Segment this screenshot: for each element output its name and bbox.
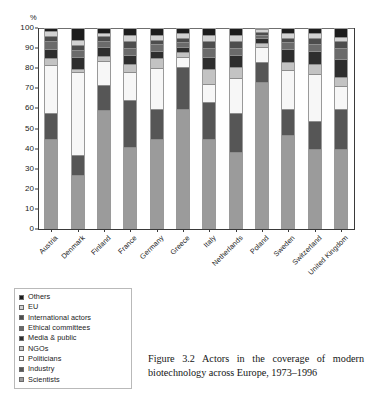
bar-segment <box>230 153 242 228</box>
bar-segment <box>124 65 136 74</box>
y-axis-tick-mark <box>35 88 38 89</box>
legend-item-label: Industry <box>28 365 54 373</box>
x-axis-category-label: Denmark <box>59 234 86 261</box>
legend-swatch-icon <box>19 305 24 310</box>
bar-segment <box>124 101 136 148</box>
bar-segment <box>151 140 163 228</box>
bar-segment <box>203 140 215 228</box>
plot-right-border <box>354 28 355 230</box>
bar-segment <box>309 122 321 150</box>
bar-segment <box>124 42 136 49</box>
legend-swatch-icon <box>19 356 24 361</box>
x-axis-category-label: Greece <box>169 234 192 257</box>
bar-segment <box>151 69 163 110</box>
bar-segment <box>72 176 84 228</box>
stacked-bar <box>176 28 190 229</box>
stacked-bar <box>123 28 137 229</box>
bar-segment <box>203 103 215 140</box>
bar-segment <box>98 48 110 57</box>
bar-segment <box>203 42 215 49</box>
stacked-bar <box>281 28 295 229</box>
bar-segment <box>151 110 163 140</box>
bar-segment <box>335 49 347 60</box>
bar-segment <box>230 56 242 68</box>
bar-segment <box>124 29 136 36</box>
stacked-bar <box>202 28 216 229</box>
bar-segment <box>124 148 136 228</box>
legend-item: Others <box>19 292 127 302</box>
bar-segment <box>72 51 84 58</box>
x-axis-tick-mark <box>315 229 316 232</box>
bar-segment <box>230 42 242 49</box>
stacked-bar <box>255 28 269 229</box>
bar-segment <box>151 59 163 70</box>
y-axis-unit-label: % <box>30 14 37 22</box>
x-axis-category-label: Poland <box>249 234 271 256</box>
x-axis-tick-mark <box>341 229 342 232</box>
bar-segment <box>230 114 242 153</box>
bar-segment <box>256 63 268 83</box>
bar-segment <box>72 58 84 70</box>
bar-segment <box>72 29 84 41</box>
legend-item-label: International actors <box>28 314 91 322</box>
x-axis-category-label: Sweden <box>272 234 296 258</box>
x-axis-tick-mark <box>183 229 184 232</box>
stacked-bar <box>150 28 164 229</box>
bar-segment <box>72 73 84 156</box>
bar-segment <box>45 42 57 51</box>
x-axis-tick-mark <box>157 229 158 232</box>
bar-segment <box>203 29 215 36</box>
y-axis-tick-mark <box>35 168 38 169</box>
figure-container: % 0102030405060708090100 AustriaDenmarkF… <box>0 0 372 405</box>
y-axis-tick-mark <box>35 148 38 149</box>
bar-segment <box>203 70 215 84</box>
bar-segment <box>282 63 294 72</box>
legend-item: EU <box>19 302 127 312</box>
legend-item: NGOs <box>19 343 127 353</box>
y-axis-tick-mark <box>35 68 38 69</box>
bar-segment <box>98 86 110 112</box>
x-axis-tick-mark <box>104 229 105 232</box>
legend-swatch-icon <box>19 377 24 382</box>
bar-segment <box>124 56 136 65</box>
chart-plot-area: % 0102030405060708090100 AustriaDenmarkF… <box>0 8 372 288</box>
x-axis-tick-mark <box>51 229 52 232</box>
x-axis-category-label: Italy <box>202 234 217 249</box>
bar-segment <box>45 50 57 59</box>
bar-segment <box>203 85 215 103</box>
stacked-bar <box>97 28 111 229</box>
x-axis-tick-mark <box>130 229 131 232</box>
legend-item: Politicians <box>19 354 127 364</box>
legend-item-label: EU <box>28 303 38 311</box>
x-axis-tick-mark <box>236 229 237 232</box>
bar-segment <box>151 45 163 52</box>
bar-segment <box>230 29 242 36</box>
bar-segment <box>124 73 136 101</box>
bar-segment <box>282 136 294 228</box>
bar-segment <box>45 59 57 66</box>
bar-segment <box>45 114 57 140</box>
x-axis-category-label: France <box>117 234 139 256</box>
x-axis-tick-mark <box>288 229 289 232</box>
x-axis-tick-mark <box>209 229 210 232</box>
bar-segment <box>309 150 321 228</box>
bar-segment <box>45 66 57 115</box>
bar-segment <box>282 71 294 110</box>
bar-segment <box>203 36 215 43</box>
x-axis-category-label: Finland <box>90 234 113 257</box>
bar-segment <box>203 58 215 70</box>
legend-item: Industry <box>19 364 127 374</box>
bar-segment <box>230 68 242 79</box>
stacked-bar <box>229 28 243 229</box>
legend-item-label: Scientists <box>28 376 60 384</box>
x-axis-tick-mark <box>262 229 263 232</box>
bar-segment <box>177 110 189 228</box>
bar-segment <box>230 49 242 56</box>
bar-segment <box>124 49 136 56</box>
x-axis-line <box>38 229 355 230</box>
bar-segment <box>177 58 189 69</box>
bar-segment <box>335 29 347 38</box>
bar-segment <box>309 39 321 46</box>
figure-caption: Figure 3.2 Actors in the coverage of mod… <box>148 352 364 379</box>
bar-segment <box>309 45 321 52</box>
